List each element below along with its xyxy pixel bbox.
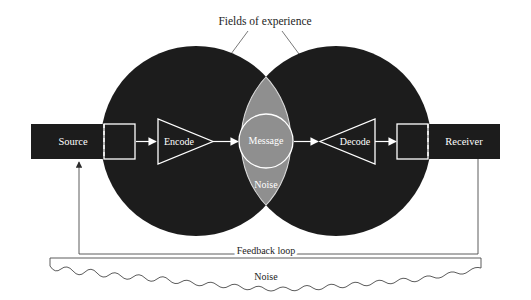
message-circle[interactable]: Message (239, 114, 293, 168)
message-label: Message (249, 135, 285, 146)
feedback-loop-label: Feedback loop (237, 245, 296, 256)
receiver-label: Receiver (445, 136, 483, 147)
source-block[interactable]: Source (31, 124, 135, 159)
receiver-block[interactable]: Receiver (397, 124, 500, 159)
encode-label: Encode (164, 136, 195, 147)
diagram-canvas: Fields of experience (0, 0, 531, 300)
fields-of-experience-label: Fields of experience (218, 15, 311, 28)
noise-band-label: Noise (254, 271, 278, 282)
communication-model-diagram: Fields of experience (0, 0, 531, 300)
noise-lens-label: Noise (254, 179, 278, 190)
source-label: Source (58, 136, 87, 147)
fields-of-experience-annotation: Fields of experience (218, 15, 311, 58)
decode-label: Decode (340, 136, 371, 147)
noise-band: Noise (50, 258, 481, 291)
